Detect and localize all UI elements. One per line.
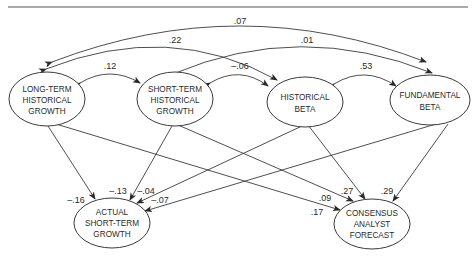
- node-label-line: LONG-TERM: [22, 85, 71, 94]
- coef-lt-hb: .22: [169, 35, 182, 45]
- node-label-line: GROWTH: [93, 230, 130, 239]
- node-label-line: HISTORICAL: [151, 96, 200, 105]
- node-historical-beta: HISTORICAL BETA: [267, 77, 343, 127]
- coef-lt-cf: .17: [311, 207, 324, 217]
- node-label-line: FUNDAMENTAL: [400, 91, 461, 100]
- coef-st-cf: .09: [319, 193, 332, 203]
- path-fb-ag: [145, 124, 436, 211]
- node-label-line: ACTUAL: [96, 208, 129, 217]
- node-label-line: CONSENSUS: [346, 209, 398, 218]
- corr-arc-st-hb: [210, 75, 268, 86]
- node-label-line: GROWTH: [28, 107, 65, 116]
- corr-arc-lt-st: [80, 74, 140, 83]
- path-lt-ag: [48, 126, 95, 199]
- node-label-line: BETA: [295, 105, 316, 114]
- node-label-line: SHORT-TERM: [85, 219, 139, 228]
- node-fundamental-beta: FUNDAMENTAL BETA: [390, 75, 470, 125]
- coef-hb-fb: .53: [360, 61, 373, 71]
- coef-fb-cf: .29: [381, 186, 394, 196]
- coef-fb-ag: –.07: [151, 195, 169, 205]
- node-label-line: SHORT-TERM: [148, 85, 202, 94]
- node-label-line: FORECAST: [350, 231, 395, 240]
- coef-hb-cf: .27: [341, 186, 354, 196]
- corr-arc-hb-fb: [334, 75, 396, 86]
- coef-st-fb: .01: [301, 35, 314, 45]
- corr-arc-lt-fb: [52, 26, 426, 62]
- node-actual-short-term-growth: ACTUAL SHORT-TERM GROWTH: [74, 198, 150, 248]
- node-label-line: GROWTH: [156, 107, 193, 116]
- coef-lt-ag: –.16: [67, 195, 85, 205]
- path-st-cf: [178, 125, 353, 201]
- path-hb-cf: [308, 125, 365, 199]
- coef-lt-fb: .07: [234, 16, 247, 26]
- node-consensus-analyst-forecast: CONSENSUS ANALYST FORECAST: [334, 199, 410, 249]
- coef-lt-st: .12: [104, 61, 117, 71]
- path-fb-cf: [393, 124, 448, 201]
- path-lt-cf: [56, 124, 340, 210]
- coef-st-ag: –.13: [109, 186, 127, 196]
- node-label-line: BETA: [420, 103, 441, 112]
- node-short-term-historical-growth: SHORT-TERM HISTORICAL GROWTH: [137, 72, 213, 126]
- node-label-line: HISTORICAL: [23, 96, 72, 105]
- node-label-line: HISTORICAL: [281, 93, 330, 102]
- node-long-term-historical-growth: LONG-TERM HISTORICAL GROWTH: [9, 72, 85, 126]
- coef-st-hb: –.06: [231, 61, 249, 71]
- path-diagram: LONG-TERM HISTORICAL GROWTH SHORT-TERM H…: [0, 0, 476, 256]
- node-label-line: ANALYST: [354, 220, 391, 229]
